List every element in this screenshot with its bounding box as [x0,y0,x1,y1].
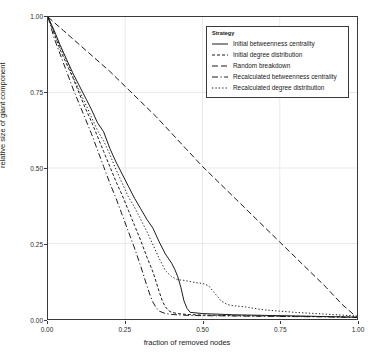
x-tick-label: 1.00 [338,326,374,333]
legend-line-swatch [211,72,229,82]
legend-label: Recalculated degree distribution [233,83,324,93]
legend-label: Initial degree distribution [233,50,302,60]
x-tick-mark [125,321,126,324]
x-tick-mark [47,321,48,324]
x-tick-mark [203,321,204,324]
legend-label: Initial betweenness centrality [233,39,315,49]
legend-entry[interactable]: Random breakdown [211,60,344,71]
legend-title: Strategy [212,30,344,36]
legend-entry[interactable]: Recalculated degree distribution [211,82,344,93]
legend-line-swatch [211,50,229,60]
x-tick-mark [358,321,359,324]
x-tick-mark [280,321,281,324]
legend-entry[interactable]: Recalculated betweenness centrality [211,71,344,82]
legend-line-swatch [211,39,229,49]
x-tick-label: 0.75 [260,326,300,333]
legend: Strategy Initial betweenness centralityI… [206,26,349,98]
legend-entries: Initial betweenness centralityInitial de… [211,38,344,93]
x-tick-label: 0.00 [27,326,67,333]
legend-line-swatch [211,83,229,93]
legend-line-swatch [211,61,229,71]
legend-entry[interactable]: Initial betweenness centrality [211,38,344,49]
legend-label: Recalculated betweenness centrality [233,72,337,82]
legend-entry[interactable]: Initial degree distribution [211,49,344,60]
x-tick-label: 0.25 [105,326,145,333]
legend-label: Random breakdown [233,61,290,71]
chart-figure: relative size of giant component fractio… [0,0,374,364]
x-tick-label: 0.50 [183,326,223,333]
